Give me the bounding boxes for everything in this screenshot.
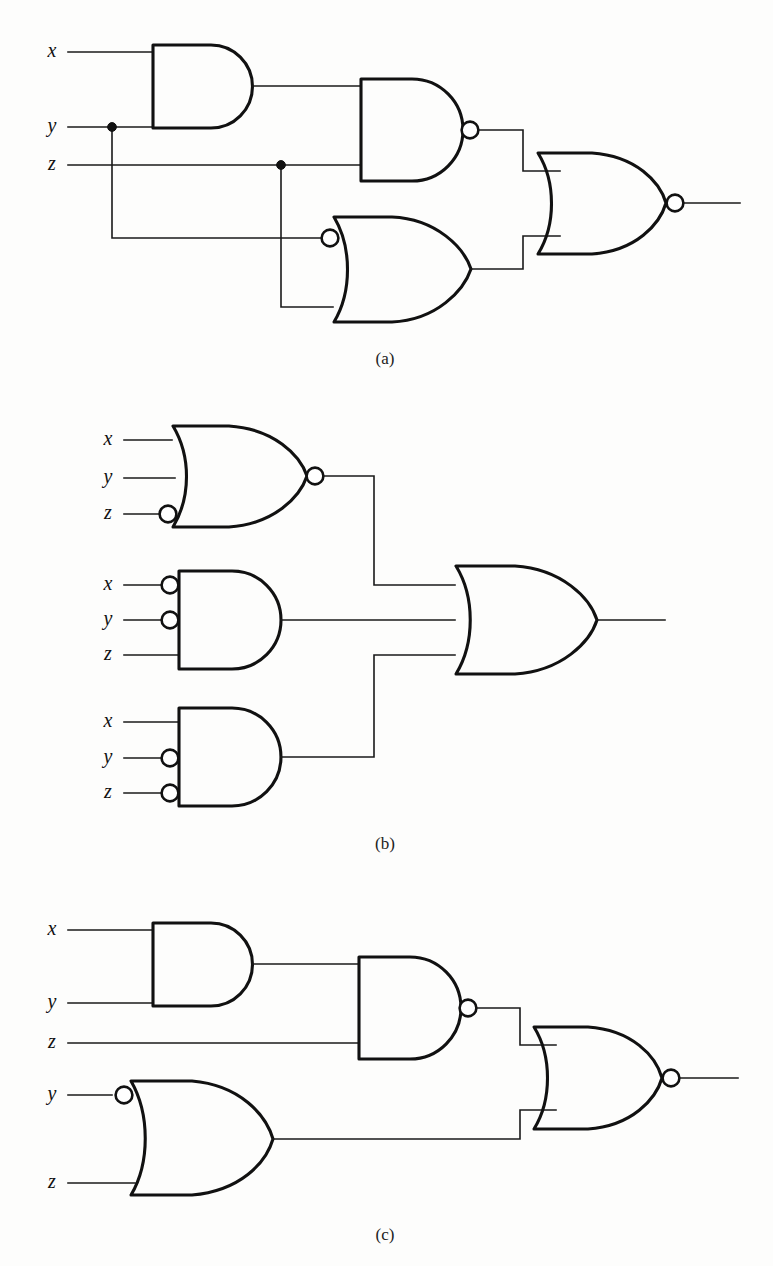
or-gate-c-input-bubble-y bbox=[116, 1087, 133, 1104]
wire-y-branch-to-or bbox=[112, 127, 322, 238]
nand-gate-mid-c-body[interactable] bbox=[359, 957, 461, 1059]
label-input-z2-c: z bbox=[47, 1170, 56, 1192]
junction-dot-y bbox=[108, 123, 117, 132]
or-gate-inverted-y-body[interactable] bbox=[131, 1081, 273, 1195]
nor-gate-output-bubble bbox=[667, 195, 684, 212]
nor-gate-output-c-bubble bbox=[663, 1070, 680, 1087]
label-input-x-b2: x bbox=[103, 572, 113, 594]
and-gate-nx-ny-z-body[interactable] bbox=[179, 571, 281, 669]
label-input-y-b2: y bbox=[102, 607, 113, 630]
label-input-z-b1: z bbox=[103, 501, 112, 523]
label-input-y-c: y bbox=[46, 990, 57, 1013]
wire-b-nor-out-to-or bbox=[324, 476, 455, 585]
and-gate-xy-c-body[interactable] bbox=[153, 923, 253, 1006]
nor-gate-output-body[interactable] bbox=[538, 153, 666, 254]
and-gate-input-bubble-y3 bbox=[162, 750, 179, 767]
and-gate-xy-body[interactable] bbox=[153, 45, 252, 128]
or-gate-inverted-top-body[interactable] bbox=[334, 217, 471, 322]
nor-gate-xyz-output-bubble bbox=[307, 468, 324, 485]
label-input-x-b1: x bbox=[103, 427, 113, 449]
figure-root: x y z (a) bbox=[0, 0, 773, 1266]
label-input-z-b3: z bbox=[103, 780, 112, 802]
label-input-y-b1: y bbox=[102, 465, 113, 488]
wire-nand-out-to-nor bbox=[479, 130, 560, 171]
nor-gate-output-c-body[interactable] bbox=[534, 1027, 662, 1129]
panel-b: x y z x y z x y z (b) bbox=[102, 426, 665, 853]
and-gate-input-bubble-y2 bbox=[162, 612, 179, 629]
label-input-z-b2: z bbox=[103, 642, 112, 664]
and-gate-x-ny-nz-body[interactable] bbox=[179, 708, 281, 806]
label-input-x-c: x bbox=[47, 917, 57, 939]
panel-label-a: (a) bbox=[376, 349, 395, 368]
nand-gate-mid-output-bubble bbox=[462, 122, 479, 139]
label-input-y-b3: y bbox=[102, 745, 113, 768]
circuit-diagram-canvas: x y z (a) bbox=[0, 0, 773, 1266]
panel-a: x y z (a) bbox=[46, 39, 740, 368]
panel-label-c: (c) bbox=[376, 1225, 395, 1244]
or-gate-input-bubble-y bbox=[322, 230, 339, 247]
junction-dot-z bbox=[277, 161, 286, 170]
label-input-z-c: z bbox=[47, 1030, 56, 1052]
wire-c-or-out-to-nor bbox=[273, 1110, 556, 1139]
label-input-x-b3: x bbox=[103, 709, 113, 731]
label-input-y-a: y bbox=[46, 114, 57, 137]
wire-b-and3-out-to-or bbox=[281, 655, 455, 757]
nor-gate-input-bubble-z bbox=[160, 506, 177, 523]
or-gate-output-body[interactable] bbox=[456, 566, 597, 674]
nor-gate-xyz-body[interactable] bbox=[173, 426, 307, 527]
nand-gate-mid-body[interactable] bbox=[361, 79, 463, 181]
nand-gate-mid-c-output-bubble bbox=[460, 1000, 477, 1017]
panel-label-b: (b) bbox=[375, 834, 395, 853]
label-input-y2-c: y bbox=[46, 1082, 57, 1105]
label-input-x-a: x bbox=[47, 39, 57, 61]
label-input-z-a: z bbox=[47, 152, 56, 174]
panel-c: x y z y z (c) bbox=[46, 917, 738, 1244]
and-gate-input-bubble-x2 bbox=[162, 577, 179, 594]
and-gate-input-bubble-z3 bbox=[162, 785, 179, 802]
